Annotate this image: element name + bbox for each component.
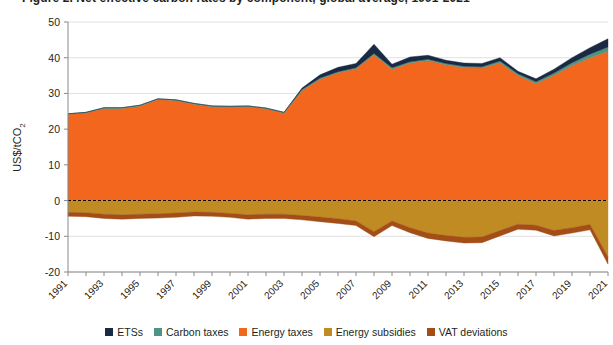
legend-label: Carbon taxes (166, 326, 228, 338)
x-tick-label: 2017 (514, 277, 538, 301)
x-tick-label: 2005 (298, 277, 322, 301)
area-series-group (68, 39, 608, 264)
area-energy-taxes (68, 51, 608, 200)
x-tick-label: 2001 (226, 277, 250, 301)
y-tick-label: 20 (48, 123, 60, 135)
plot-area: 50403020100-10-20 1991199319951997199920… (0, 0, 613, 320)
legend-item-energy-subsidies[interactable]: Energy subsidies (324, 326, 416, 338)
legend-swatch-icon (154, 328, 162, 336)
chart-root: Figure 2. Net effective carbon rates by … (0, 0, 613, 345)
chart-title: Figure 2. Net effective carbon rates by … (22, 0, 470, 5)
legend-swatch-icon (239, 328, 247, 336)
x-tick-label: 2013 (442, 277, 466, 301)
x-tick-label: 1991 (46, 277, 70, 301)
legend-label: VAT deviations (439, 326, 508, 338)
y-tick-label: -10 (45, 230, 60, 242)
x-tick-label: 2019 (550, 277, 574, 301)
y-tick-label: 40 (48, 52, 60, 64)
x-tick-labels: 1991199319951997199920012003200520072009… (46, 272, 610, 301)
x-tick-label: 1993 (82, 277, 106, 301)
x-tick-label: 2021 (586, 277, 610, 301)
legend-label: Energy subsidies (336, 326, 416, 338)
chart-title-strip: Figure 2. Net effective carbon rates by … (0, 0, 613, 9)
legend-swatch-icon (105, 328, 113, 336)
legend-item-carbon-taxes[interactable]: Carbon taxes (154, 326, 228, 338)
y-axis-label: US$/tCO2 (11, 83, 26, 213)
x-tick-label: 2015 (478, 277, 502, 301)
y-axis-label-sub: 2 (18, 123, 27, 127)
legend-label: ETSs (117, 326, 143, 338)
y-tick-label: 0 (54, 195, 60, 207)
legend-label: Energy taxes (251, 326, 312, 338)
legend-item-energy-taxes[interactable]: Energy taxes (239, 326, 312, 338)
y-axis-label-text: US$/tCO (11, 128, 23, 172)
y-tick-label: 50 (48, 16, 60, 28)
x-tick-label: 2007 (334, 277, 358, 301)
chart-legend: ETSsCarbon taxesEnergy taxesEnergy subsi… (0, 326, 613, 338)
x-tick-label: 2011 (406, 277, 429, 300)
y-tick-label: -20 (45, 266, 60, 278)
legend-item-etss[interactable]: ETSs (105, 326, 143, 338)
x-tick-label: 1997 (154, 277, 178, 301)
legend-swatch-icon (427, 328, 435, 336)
legend-swatch-icon (324, 328, 332, 336)
x-tick-label: 1999 (190, 277, 214, 301)
x-tick-label: 2003 (262, 277, 286, 301)
y-tick-label: 30 (48, 87, 60, 99)
y-tick-labels: 50403020100-10-20 (45, 16, 68, 278)
y-tick-label: 10 (48, 159, 60, 171)
x-tick-label: 2009 (370, 277, 394, 301)
legend-item-vat-deviations[interactable]: VAT deviations (427, 326, 508, 338)
x-tick-label: 1995 (118, 277, 142, 301)
